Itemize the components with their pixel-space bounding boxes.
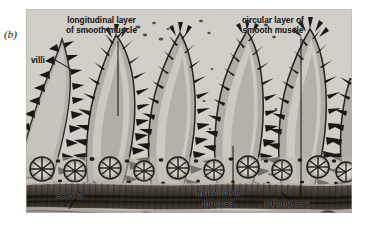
- label-villi: villi: [31, 56, 45, 66]
- label-muscularis-line2: mucosa: [202, 198, 233, 208]
- label-longitudinal-line1: longitudinal layer: [67, 15, 136, 25]
- label-longitudinal-line2: of smooth muscle: [66, 25, 137, 35]
- micrograph-svg: [26, 9, 352, 213]
- label-muscularis-line1: muscularis: [196, 188, 240, 198]
- label-circular-line2: smooth muscle: [242, 25, 303, 35]
- panel-letter: (b): [4, 28, 17, 40]
- label-submucosa-text: submucosa: [264, 198, 310, 208]
- label-circular-layer: circular layer of smooth muscle: [242, 16, 304, 35]
- figure-panel-b: (b): [0, 0, 369, 236]
- label-serosa-text: serosa: [56, 190, 83, 200]
- label-serosa: serosa: [56, 191, 83, 201]
- micrograph-image: [26, 9, 352, 213]
- label-villi-text: villi: [31, 55, 45, 65]
- label-muscularis-mucosa: muscularis mucosa: [196, 189, 240, 208]
- label-longitudinal-layer: longitudinal layer of smooth muscle: [66, 16, 137, 35]
- label-submucosa: submucosa: [264, 199, 310, 209]
- label-circular-line1: circular layer of: [242, 15, 304, 25]
